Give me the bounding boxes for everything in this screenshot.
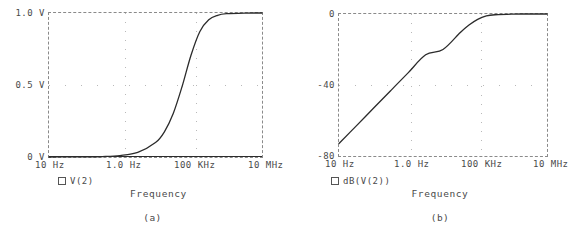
curve-v2 — [49, 13, 262, 157]
legend-a: V(2) — [58, 176, 94, 186]
panel-b: 0 -40 -80 10 Hz 1.0 Hz 100 KHz 10 MHz dB… — [293, 0, 587, 234]
x-axis-title-b: Frequency — [293, 188, 587, 199]
caption-a: (a) — [6, 212, 299, 223]
caption-b: (b) — [293, 212, 587, 223]
baseline-a — [49, 156, 262, 157]
plot-area-a: 1.0 V 0.5 V 0 V 10 Hz 1.0 Hz 100 KHz 10 … — [48, 12, 263, 158]
y-tick-label-b-2: -40 — [317, 81, 335, 90]
x-tick-label-a-4: 10 MHz — [248, 160, 284, 170]
y-tick-label-a-1: 1.0 V — [15, 9, 45, 18]
x-tick-label-b-3: 100 KHz — [461, 159, 502, 169]
x-tick-label-b-1: 10 Hz — [325, 159, 355, 169]
plot-area-b: 0 -40 -80 10 Hz 1.0 Hz 100 KHz 10 MHz — [338, 13, 548, 157]
x-axis-title-a: Frequency — [12, 188, 305, 199]
panel-a: 1.0 V 0.5 V 0 V 10 Hz 1.0 Hz 100 KHz 10 … — [0, 0, 293, 234]
square-marker-icon — [58, 177, 66, 185]
legend-label-b: dB(V(2)) — [343, 176, 390, 186]
figure-container: 1.0 V 0.5 V 0 V 10 Hz 1.0 Hz 100 KHz 10 … — [0, 0, 587, 234]
legend-label-a: V(2) — [70, 176, 94, 186]
square-marker-icon — [331, 177, 339, 185]
x-tick-label-a-3: 100 KHz — [174, 160, 215, 170]
x-tick-label-b-2: 1.0 Hz — [394, 159, 430, 169]
legend-b: dB(V(2)) — [331, 176, 390, 186]
x-tick-label-b-4: 10 MHz — [533, 159, 569, 169]
y-tick-label-b-1: 0 — [329, 10, 335, 19]
x-tick-label-a-2: 1.0 Hz — [106, 160, 142, 170]
y-tick-label-a-2: 0.5 V — [15, 81, 45, 90]
x-tick-label-a-1: 10 Hz — [35, 160, 65, 170]
curve-db-v2 — [339, 14, 547, 156]
